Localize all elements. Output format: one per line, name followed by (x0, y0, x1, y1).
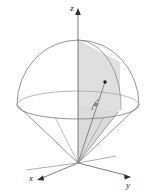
x-axis-group: x (28, 163, 78, 183)
z-axis-arrowhead (75, 8, 81, 15)
surface-point-marker (103, 80, 106, 83)
x-axis-arrowhead (37, 175, 44, 180)
y-axis-label: y (125, 180, 130, 190)
cone-inner-generatrix-left (55, 117, 78, 163)
cone-left-generatrix (17, 105, 78, 163)
y-axis-line (78, 163, 125, 175)
x-axis-label: x (28, 173, 33, 183)
spherical-coordinates-figure: φ z x y (0, 0, 148, 192)
origin-guide-rays (26, 156, 116, 170)
z-axis-label: z (69, 3, 74, 13)
y-axis-group: y (78, 163, 131, 190)
dome-left-edge (17, 105, 78, 119)
shaded-wedge-lower (78, 105, 118, 163)
figure-canvas: φ z x y (0, 0, 148, 192)
y-axis-arrowhead (124, 174, 131, 179)
